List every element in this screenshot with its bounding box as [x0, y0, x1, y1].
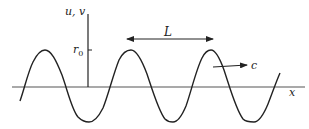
- speed-label: c: [251, 59, 257, 72]
- x-axis-label: x: [289, 86, 296, 99]
- r0-label-subscript: 0: [78, 49, 83, 58]
- speed-arrow: [213, 65, 247, 67]
- y-axis-label: u, v: [65, 5, 86, 18]
- wavelength-label: L: [163, 25, 172, 39]
- wave-diagram: u, v r0 L c x: [0, 0, 309, 129]
- r0-tick-label: r0: [73, 43, 83, 58]
- wave-curve: [20, 50, 280, 122]
